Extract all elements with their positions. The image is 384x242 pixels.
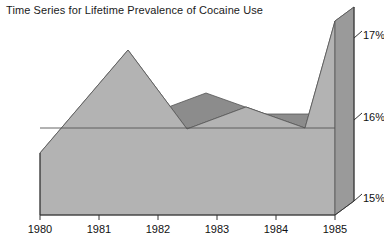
x-tick-label-1981: 1981 [87,223,111,235]
y-tick-mark-15 [354,194,362,201]
x-tick-label-1980: 1980 [28,223,52,235]
y-tick-mark-16 [354,113,362,120]
y-tick-mark-17 [354,31,362,38]
x-tick-label-1982: 1982 [146,223,170,235]
y-tick-label-17: 17% [363,29,384,41]
x-tick-label-1984: 1984 [264,223,288,235]
y-tick-label-15: 15% [363,192,384,204]
y-tick-label-16: 16% [363,111,384,123]
x-tick-label-1985: 1985 [323,223,347,235]
ribbon-side-face [335,7,354,215]
chart-plot-area: 17% 16% 15% 1980 1981 1982 1983 1984 198… [0,0,384,242]
x-tick-label-1983: 1983 [205,223,229,235]
chart-container: Time Series for Lifetime Prevalence of C… [0,0,384,242]
